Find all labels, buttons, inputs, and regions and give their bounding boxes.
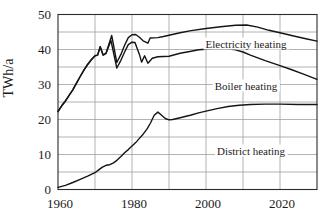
y-tick-label: 20 [38,112,51,127]
series-label-district-heating: District heating [217,145,286,157]
x-tick-label: 2020 [269,196,295,211]
y-tick-label: 10 [38,147,51,162]
y-tick-label: 50 [38,7,51,22]
y-tick-label: 40 [38,42,51,57]
y-axis-label: TWh/a [1,58,16,98]
series-label-boiler-heating: Boiler heating [215,80,278,92]
x-tick-label: 1960 [47,196,73,211]
x-tick-label: 2000 [195,196,221,211]
series-label-electricity-heating: Electricity heating [206,38,287,50]
heating-energy-chart: Electricity heatingBoiler heatingDistric… [0,0,332,224]
x-tick-label: 1980 [121,196,147,211]
chart-canvas: Electricity heatingBoiler heatingDistric… [0,0,332,224]
y-tick-label: 30 [38,77,51,92]
